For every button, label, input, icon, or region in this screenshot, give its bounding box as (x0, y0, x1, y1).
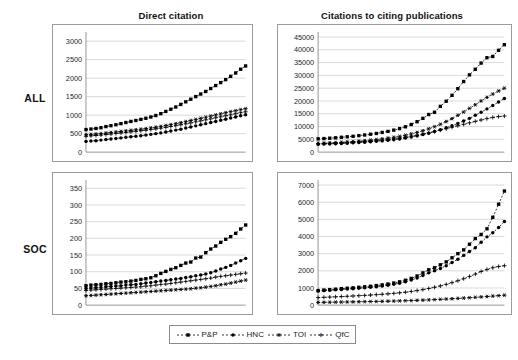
data-point (462, 277, 466, 281)
data-point (380, 292, 384, 296)
data-point (89, 294, 93, 298)
data-point (432, 125, 436, 129)
data-point (392, 299, 396, 303)
data-point (229, 116, 232, 119)
data-point (199, 255, 202, 258)
data-point (433, 266, 436, 269)
legend-item-p-p[interactable]: P&P (176, 330, 218, 340)
data-point (439, 267, 442, 270)
data-point (468, 117, 471, 120)
data-point (473, 119, 477, 123)
data-point (467, 274, 471, 278)
legend-item-qfc[interactable]: QfC (309, 330, 349, 340)
data-point (99, 138, 102, 141)
y-tick-label: 500 (70, 129, 82, 138)
data-point (189, 98, 192, 101)
chart-panel-all-direct: 050010001500200025003000 (52, 24, 253, 162)
data-point (234, 280, 238, 284)
data-point (149, 290, 153, 294)
data-point (94, 293, 98, 297)
data-point (479, 61, 482, 64)
data-point (234, 232, 237, 235)
data-point (357, 300, 361, 304)
data-point (363, 300, 367, 304)
data-point (474, 114, 477, 117)
data-point (169, 108, 172, 111)
data-point (334, 141, 338, 145)
data-point (189, 287, 193, 291)
data-point (214, 120, 217, 123)
data-point (189, 275, 192, 278)
data-point (328, 141, 332, 145)
data-point (427, 286, 431, 290)
data-point (239, 68, 242, 71)
figure-root: Direct citation Citations to citing publ… (0, 0, 518, 360)
data-point (209, 271, 212, 274)
data-point (159, 279, 162, 282)
y-tick-label: 3000 (66, 37, 82, 46)
data-point (84, 140, 87, 143)
data-point (404, 280, 407, 283)
data-point (134, 291, 138, 295)
data-point (438, 128, 442, 132)
data-point (184, 100, 187, 103)
legend-item-toi[interactable]: TOI (267, 330, 306, 340)
data-point (497, 203, 500, 206)
data-point (184, 279, 188, 283)
data-point (224, 238, 227, 241)
data-point (398, 299, 402, 303)
data-point (474, 68, 477, 71)
y-tick-label: 0 (78, 301, 82, 310)
data-point (404, 125, 407, 128)
data-point (164, 279, 167, 282)
data-point (444, 297, 448, 301)
y-tick-label: 150 (70, 251, 82, 260)
data-point (368, 293, 372, 297)
data-point (129, 285, 133, 289)
data-point (119, 136, 122, 139)
legend-marker-filled-square-icon (176, 330, 200, 340)
data-point (194, 120, 198, 124)
data-point (462, 248, 465, 251)
data-point (357, 287, 360, 290)
data-point (444, 282, 448, 286)
legend-item-hnc[interactable]: HNC (221, 330, 264, 340)
data-point (351, 294, 355, 298)
data-point (415, 289, 419, 293)
y-tick-label: 20000 (294, 97, 314, 106)
y-tick-label: 2500 (66, 55, 82, 64)
data-point (403, 299, 407, 303)
data-point (189, 260, 192, 263)
data-point (194, 124, 197, 127)
data-point (485, 227, 488, 230)
y-tick-label: 3000 (298, 249, 314, 258)
data-point (439, 263, 442, 266)
data-point (409, 289, 413, 293)
y-tick-label: 350 (70, 184, 82, 193)
y-tick-label: 30000 (294, 71, 314, 80)
data-point (209, 247, 212, 250)
legend-label: TOI (293, 330, 306, 339)
data-point (199, 123, 202, 126)
data-point (89, 283, 92, 286)
data-point (357, 294, 361, 298)
y-tick-label: 6000 (298, 198, 314, 207)
data-point (219, 119, 222, 122)
data-point (433, 111, 436, 114)
data-point (328, 289, 331, 292)
data-point (485, 96, 489, 100)
data-point (491, 266, 495, 270)
data-point (169, 124, 173, 128)
y-tick-label: 50 (74, 284, 82, 293)
data-point (224, 117, 227, 120)
data-point (194, 256, 197, 259)
data-point (421, 298, 425, 302)
data-point (154, 280, 157, 283)
y-axis: 050100150200250300350 (70, 180, 86, 310)
chart-svg-all-direct: 050010001500200025003000 (53, 25, 252, 161)
data-point (345, 300, 349, 304)
data-point (450, 261, 453, 264)
data-point (244, 110, 248, 114)
data-point (99, 283, 102, 286)
data-point (473, 103, 477, 107)
